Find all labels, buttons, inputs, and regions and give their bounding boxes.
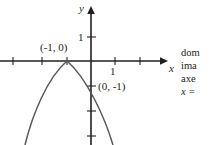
side-text-line-3: axe (181, 72, 211, 85)
y-axis (87, 6, 95, 145)
vertex-point-label: (-1, 0) (40, 42, 68, 53)
x-axis-label: x (169, 63, 174, 74)
y-intercept-point-label: (0, -1) (98, 81, 126, 92)
y-axis-label: y (79, 3, 84, 14)
graph-canvas (0, 0, 211, 145)
x-tick-label-1: 1 (110, 66, 116, 77)
side-text-line-2: ima (181, 59, 211, 72)
x-axis (0, 57, 168, 65)
parabola-figure: (-1, 0) (0, -1) y x 1 1 (0, 0, 211, 145)
side-text-line-4: x = (181, 85, 211, 98)
y-tick-label-1: 1 (78, 32, 84, 43)
side-text-line-1: dom (181, 46, 211, 59)
parabola-curve (25, 61, 113, 145)
side-text-block: dom ima axe x = (181, 46, 211, 98)
